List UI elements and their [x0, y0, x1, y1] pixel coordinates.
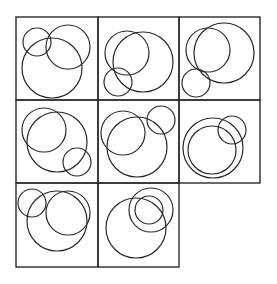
circle-shape	[46, 25, 90, 69]
circle-shape	[188, 126, 236, 174]
circle-shape	[18, 189, 46, 217]
cell-border	[179, 17, 260, 100]
circle-shape	[27, 112, 87, 172]
circle-shape	[129, 188, 173, 232]
cell-border	[98, 17, 179, 100]
matrix-cell-r2-c0	[16, 183, 98, 267]
circle-shape	[106, 198, 166, 258]
circle-shape	[183, 118, 243, 178]
cell-border	[179, 100, 260, 183]
circle-matrix-diagram	[0, 0, 277, 284]
circle-shape	[46, 191, 90, 235]
cell-border	[16, 183, 98, 267]
cell-border	[16, 17, 98, 100]
matrix-cell-r1-c1	[98, 100, 179, 183]
circle-shape	[182, 69, 210, 97]
circle-shape	[105, 31, 149, 75]
circle-shape	[63, 148, 91, 176]
circle-shape	[107, 117, 167, 177]
matrix-cell-r2-c1	[98, 183, 179, 267]
matrix-cell-r0-c1	[98, 17, 179, 100]
circle-shape	[27, 191, 87, 251]
matrix-cell-r0-c2	[179, 17, 260, 100]
matrix-cell-r0-c0	[16, 17, 98, 100]
circle-shape	[218, 116, 246, 144]
circle-shape	[194, 23, 254, 83]
cells-layer	[16, 17, 260, 267]
circle-shape	[104, 68, 132, 96]
circle-shape	[113, 32, 173, 92]
matrix-cell-r1-c2	[179, 100, 260, 183]
circle-shape	[186, 28, 230, 72]
matrix-cell-r1-c0	[16, 100, 98, 183]
circle-shape	[135, 196, 163, 224]
